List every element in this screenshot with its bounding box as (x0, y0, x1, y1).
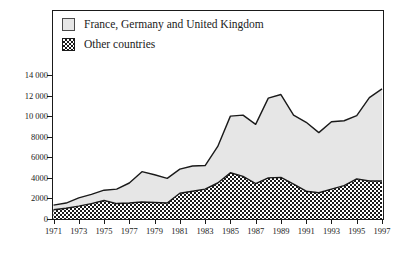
x-axis-tick-mark (357, 220, 358, 224)
x-axis-tick-mark (230, 220, 231, 224)
chart-container: 0200040006000800010 00012 00014 000 1971… (0, 0, 406, 258)
legend-item-other: Other countries (62, 38, 264, 51)
x-axis-tick-mark (281, 220, 282, 224)
chart-legend: France, Germany and United KingdomOther … (62, 18, 264, 58)
x-axis-tick-mark (306, 220, 307, 224)
x-axis-tick-mark (54, 220, 55, 224)
x-axis-tick-label: 1977 (121, 226, 138, 236)
x-axis-tick-label: 1997 (374, 226, 391, 236)
x-axis-tick-label: 1985 (222, 226, 239, 236)
x-axis-tick-mark (155, 220, 156, 224)
x-axis-tick-label: 1991 (298, 226, 315, 236)
x-axis-tick-label: 1975 (96, 226, 113, 236)
legend-label: France, Germany and United Kingdom (84, 18, 264, 31)
x-axis-tick-mark (79, 220, 80, 224)
x-axis-tick-mark (331, 220, 332, 224)
x-axis-tick-label: 1979 (146, 226, 163, 236)
x-axis-tick-label: 1995 (348, 226, 365, 236)
x-axis-tick-mark (180, 220, 181, 224)
x-axis-tick-label: 1983 (197, 226, 214, 236)
legend-swatch-checker-icon (62, 38, 75, 51)
x-axis-tick-mark (205, 220, 206, 224)
x-axis-tick-mark (256, 220, 257, 224)
x-axis-tick-label: 1981 (171, 226, 188, 236)
x-axis-tick-mark (104, 220, 105, 224)
x-axis-tick-label: 1973 (70, 226, 87, 236)
legend-item-fgu: France, Germany and United Kingdom (62, 18, 264, 31)
legend-label: Other countries (84, 38, 155, 51)
x-axis-tick-label: 1971 (45, 226, 62, 236)
x-axis-tick-mark (129, 220, 130, 224)
x-axis-tick-label: 1993 (323, 226, 340, 236)
x-axis-tick-label: 1987 (247, 226, 264, 236)
legend-swatch-gray-icon (62, 18, 75, 31)
x-axis-tick-mark (382, 220, 383, 224)
x-axis-tick-label: 1989 (272, 226, 289, 236)
